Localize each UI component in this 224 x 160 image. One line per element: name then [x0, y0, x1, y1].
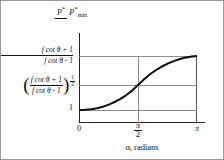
- y-axis-label-denominator: P*min: [69, 5, 87, 19]
- x-tick-label-0: 0: [71, 125, 87, 133]
- y-axis-label: P* P*min: [51, 5, 91, 19]
- figure-chart: P* P*min f cot θ + 1 f cot θ - 1 ( f cot…: [0, 0, 224, 160]
- y-tick-top-denominator: f cot θ - 1: [1, 56, 73, 65]
- x-tick-label-half-pi: π 2: [130, 122, 146, 140]
- y-tick-label-middle: ( f cot θ + 1 f cot θ - 1 ) 1 2: [0, 75, 75, 96]
- y-tick-mid-denominator: f cot θ - 1: [30, 86, 63, 95]
- two-denominator: 2: [130, 131, 146, 139]
- star-superscript: *: [62, 5, 66, 13]
- y-tick-label-top: f cot θ + 1 f cot θ - 1: [1, 46, 73, 65]
- data-curve: [79, 33, 197, 123]
- x-axis-title: α, radians: [79, 142, 205, 152]
- y-tick-mid-numerator: f cot θ + 1: [30, 76, 63, 86]
- plot-area: [79, 33, 197, 123]
- y-axis-label-numerator: P*: [55, 6, 67, 19]
- min-subscript: min: [78, 12, 87, 18]
- y-tick-label-bottom: 1: [53, 104, 73, 112]
- exponent-one-half: 1 2: [70, 75, 75, 87]
- y-tick-mid-fraction: f cot θ + 1 f cot θ - 1: [30, 76, 63, 95]
- exponent-denominator: 2: [70, 82, 75, 88]
- y-tick-top-numerator: f cot θ + 1: [1, 46, 73, 56]
- x-tick-label-pi: π: [189, 125, 205, 133]
- right-paren: ): [63, 77, 69, 93]
